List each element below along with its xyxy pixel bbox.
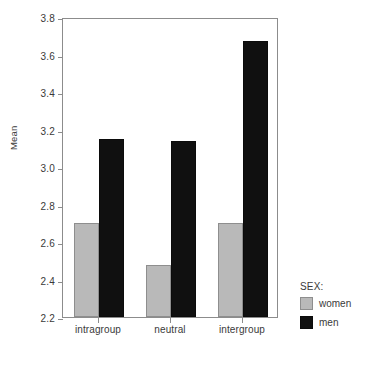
bar-intergroup-men <box>243 41 268 317</box>
y-axis-tick-label: 3.2 <box>15 127 55 137</box>
y-axis-tick-label: 2.8 <box>15 202 55 212</box>
bar-chart-figure: Mean 2.22.42.62.83.03.23.43.63.8 intragr… <box>0 0 365 366</box>
y-axis-tick <box>58 282 63 283</box>
bar-intragroup-men <box>99 139 124 317</box>
y-axis-tick <box>58 94 63 95</box>
plot-area: 2.22.42.62.83.03.23.43.63.8 <box>62 18 278 318</box>
y-axis-tick <box>58 169 63 170</box>
legend-item-men[interactable]: men <box>300 316 364 329</box>
y-axis-tick-label: 3.4 <box>15 89 55 99</box>
bar-neutral-women <box>146 265 171 318</box>
y-axis-tick-label: 3.8 <box>15 14 55 24</box>
legend-item-label: women <box>319 298 351 309</box>
y-axis-tick <box>58 319 63 320</box>
y-axis-tick <box>58 207 63 208</box>
y-axis-title: Mean <box>8 90 19 150</box>
y-axis-tick-label: 3.6 <box>15 52 55 62</box>
y-axis-tick <box>58 132 63 133</box>
y-axis-tick-label: 2.6 <box>15 239 55 249</box>
legend-swatch-icon <box>300 316 313 329</box>
bar-intragroup-women <box>74 223 99 317</box>
plot-inner: 2.22.42.62.83.03.23.43.63.8 <box>63 19 277 317</box>
y-axis-tick <box>58 57 63 58</box>
x-axis-tick <box>98 318 99 323</box>
x-axis-tick <box>170 318 171 323</box>
x-axis-category-label: intergroup <box>197 324 287 335</box>
bar-neutral-men <box>171 141 196 317</box>
legend-item-label: men <box>319 317 338 328</box>
legend-swatch-icon <box>300 297 313 310</box>
y-axis-tick-label: 2.4 <box>15 277 55 287</box>
legend-item-women[interactable]: women <box>300 297 364 310</box>
y-axis-tick <box>58 244 63 245</box>
y-axis-tick <box>58 19 63 20</box>
legend-title: SEX: <box>300 281 364 292</box>
legend-entries: womenmen <box>300 297 364 329</box>
x-axis-tick <box>242 318 243 323</box>
y-axis-tick-label: 3.0 <box>15 164 55 174</box>
bar-intergroup-women <box>218 223 243 317</box>
legend: SEX: womenmen <box>300 281 364 335</box>
y-axis-tick-label: 2.2 <box>15 314 55 324</box>
